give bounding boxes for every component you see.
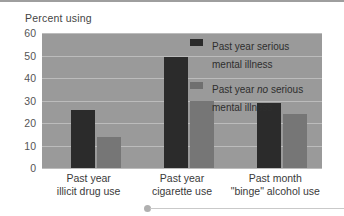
y-axis-tick-label: 30 [24,95,36,107]
category-label-line: cigarette use [135,185,228,198]
y-axis-tick-label: 20 [24,117,36,129]
page-title: Percent using [25,12,92,24]
plot-area: Past year serious mental illness Past ye… [42,33,322,168]
bar [164,57,188,168]
legend-label-no-serious: Past year no serious mental illness [212,84,303,113]
category-label-line: Past year [135,172,228,185]
x-axis-category-labels: Past yearillicit drug usePast yearcigare… [42,172,322,202]
y-axis-tick-label: 60 [24,27,36,39]
category-label-line: Past month [229,172,322,185]
legend-swatch-dark-icon [190,39,203,46]
legend-item-no-serious: Past year no serious mental illness [190,79,322,115]
x-axis-category-label: Past yearcigarette use [135,172,228,197]
gridline [42,33,322,34]
category-label-line: Past year [42,172,135,185]
legend: Past year serious mental illness Past ye… [190,36,322,122]
bar [283,114,307,168]
y-axis-tick-label: 0 [30,162,36,174]
legend-swatch-light-icon [190,82,203,89]
bar [97,137,121,169]
y-axis-tick-label: 40 [24,72,36,84]
x-axis-category-label: Past month"binge" alcohol use [229,172,322,197]
legend-label-part-italic: no [257,84,268,95]
legend-label-part-pre: Past year [212,84,257,95]
footer-divider [150,208,344,209]
category-label-line: illicit drug use [42,185,135,198]
y-axis-tick-label: 10 [24,140,36,152]
gridline [42,168,322,169]
x-axis-category-label: Past yearillicit drug use [42,172,135,197]
legend-label-serious: Past year serious mental illness [212,41,289,70]
legend-item-serious: Past year serious mental illness [190,36,322,72]
y-axis-ticks: 0102030405060 [0,33,42,169]
chart-figure: Percent using 0102030405060 Past year se… [0,2,344,216]
y-axis-tick-label: 50 [24,50,36,62]
category-label-line: "binge" alcohol use [229,185,322,198]
bar [71,110,95,168]
